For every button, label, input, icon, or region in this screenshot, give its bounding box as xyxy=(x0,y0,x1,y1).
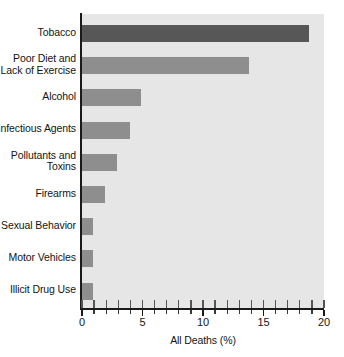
x-tick-inner xyxy=(93,300,94,308)
bar xyxy=(82,186,105,203)
x-tick-label: 0 xyxy=(62,316,102,328)
x-tick-inner xyxy=(227,300,228,308)
bar xyxy=(82,25,309,42)
x-tick-inner xyxy=(118,300,119,308)
x-tick-inner xyxy=(287,300,288,308)
x-tick-label: 10 xyxy=(183,316,223,328)
bar xyxy=(82,218,93,235)
x-tick-inner xyxy=(214,300,215,308)
category-label-line: Alcohol xyxy=(42,90,76,102)
x-tick-inner xyxy=(251,300,252,308)
category-label: Illicit Drug Use xyxy=(0,284,76,296)
x-tick-minor xyxy=(299,310,300,314)
x-tick-minor xyxy=(106,310,107,314)
bar xyxy=(82,122,130,139)
x-tick-inner xyxy=(178,300,179,308)
x-tick-inner xyxy=(323,300,324,308)
category-label-line: Infectious Agents xyxy=(0,122,76,134)
category-label-line: Lack of Exercise xyxy=(0,65,76,77)
bar-row xyxy=(82,89,324,106)
x-tick-inner xyxy=(275,300,276,308)
bar xyxy=(82,57,249,74)
x-tick-inner xyxy=(299,300,300,308)
bar-row xyxy=(82,186,324,203)
x-tick-inner xyxy=(202,300,203,308)
category-label: Alcohol xyxy=(0,91,76,103)
category-label-line: Sexual Behavior xyxy=(1,219,76,231)
x-tick-minor xyxy=(275,310,276,314)
category-label-line: Poor Diet and xyxy=(13,52,76,64)
x-tick-minor xyxy=(166,310,167,314)
x-tick-inner xyxy=(130,300,131,308)
category-label-line: Motor Vehicles xyxy=(9,251,76,263)
x-tick-minor xyxy=(287,310,288,314)
x-tick-inner xyxy=(81,300,82,308)
x-tick-minor xyxy=(227,310,228,314)
x-tick-minor xyxy=(178,310,179,314)
x-tick-inner xyxy=(142,300,143,308)
bar xyxy=(82,250,93,267)
category-label-line: Firearms xyxy=(35,187,76,199)
x-tick-label: 5 xyxy=(123,316,163,328)
x-tick-inner xyxy=(239,300,240,308)
x-tick-minor xyxy=(93,310,94,314)
x-tick-inner xyxy=(263,300,264,308)
x-tick-inner xyxy=(154,300,155,308)
x-tick-minor xyxy=(130,310,131,314)
x-axis-title: All Deaths (%) xyxy=(82,334,324,346)
x-tick-minor xyxy=(239,310,240,314)
category-label: Infectious Agents xyxy=(0,123,76,135)
x-tick-inner xyxy=(166,300,167,308)
x-tick-minor xyxy=(251,310,252,314)
category-label: Motor Vehicles xyxy=(0,252,76,264)
bar xyxy=(82,154,117,171)
x-tick-minor xyxy=(118,310,119,314)
bar-row xyxy=(82,57,324,74)
x-tick-minor xyxy=(214,310,215,314)
bar-row xyxy=(82,283,324,300)
bar-row xyxy=(82,218,324,235)
bar-row xyxy=(82,154,324,171)
x-tick-minor xyxy=(154,310,155,314)
bar-chart-figure: TobaccoPoor Diet andLack of ExerciseAlco… xyxy=(0,0,344,357)
category-label-line: Pollutants and xyxy=(11,149,76,161)
x-tick-label: 20 xyxy=(304,316,344,328)
category-label: Poor Diet andLack of Exercise xyxy=(0,53,76,76)
bar-row xyxy=(82,25,324,42)
category-label-line: Tobacco xyxy=(38,26,76,38)
category-label: Sexual Behavior xyxy=(0,220,76,232)
bar xyxy=(82,283,93,300)
category-label: Tobacco xyxy=(0,27,76,39)
x-tick-minor xyxy=(190,310,191,314)
bar-row xyxy=(82,122,324,139)
bar-row xyxy=(82,250,324,267)
x-tick-label: 15 xyxy=(244,316,284,328)
category-label: Firearms xyxy=(0,188,76,200)
x-tick-inner xyxy=(190,300,191,308)
bar xyxy=(82,89,141,106)
x-tick-minor xyxy=(311,310,312,314)
x-tick-inner xyxy=(311,300,312,308)
category-label: Pollutants andToxins xyxy=(0,150,76,173)
category-label-line: Illicit Drug Use xyxy=(10,283,76,295)
x-tick-inner xyxy=(106,300,107,308)
category-label-line: Toxins xyxy=(0,161,76,173)
